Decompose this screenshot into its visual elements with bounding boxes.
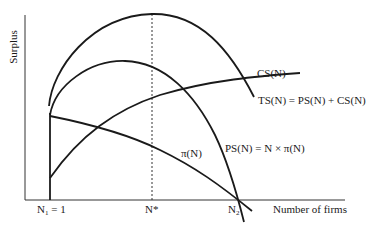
cs-label: CS(N) xyxy=(257,67,286,80)
x-axis-label: Number of firms xyxy=(273,203,347,215)
n2-tick-label: N2 xyxy=(228,203,240,217)
y-axis-label: Surplus xyxy=(7,30,19,64)
surplus-diagram: Surplus CS(N) TS(N) = PS(N) + CS(N) PS(N… xyxy=(0,0,369,234)
ps-label: PS(N) = N × π(N) xyxy=(225,142,305,155)
ps-curve xyxy=(50,61,244,222)
n1-tick-label: N1 = 1 xyxy=(37,203,66,217)
pi-curve xyxy=(50,116,252,211)
cs-curve xyxy=(50,73,300,178)
pi-label: π(N) xyxy=(181,147,202,160)
n-star-tick-label: N* xyxy=(145,203,158,215)
ts-label: TS(N) = PS(N) + CS(N) xyxy=(258,94,366,107)
